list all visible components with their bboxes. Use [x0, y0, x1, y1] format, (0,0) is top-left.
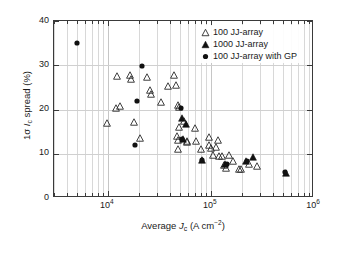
x-axis-tick-top: [201, 21, 202, 24]
data-point-filled-triangle: [181, 119, 190, 128]
gridline-vertical-minor: [170, 21, 171, 196]
x-axis-tick-top: [180, 21, 181, 24]
legend-item-label: 100 JJ-array with GP: [212, 51, 297, 61]
x-axis-tick-top: [67, 21, 68, 24]
y-axis-title-sigma: 1σ: [21, 126, 32, 140]
x-axis-tick: [195, 193, 196, 196]
x-axis-tick: [77, 193, 78, 196]
x-axis-tick-top: [103, 21, 104, 24]
data-point-open-triangle: [112, 71, 121, 80]
y-axis-tick-right: [307, 65, 312, 66]
data-point-open-triangle: [170, 71, 179, 80]
data-point-open-triangle: [142, 72, 151, 81]
y-axis-tick: [54, 110, 59, 111]
x-axis-title-units-open: (A cm: [187, 220, 214, 231]
legend-item-label: 100 JJ-array: [212, 27, 263, 37]
x-axis-tick: [92, 193, 93, 196]
gridline-vertical-minor: [67, 21, 68, 196]
legend-item-label: 1000 JJ-array: [212, 39, 268, 49]
legend-marker-filled-circle-icon: [199, 52, 212, 61]
x-axis-tick: [98, 193, 99, 196]
data-point-open-triangle: [192, 136, 201, 145]
x-axis-tick: [108, 191, 109, 196]
x-axis-tick-top: [98, 21, 99, 24]
x-axis-tick-top: [195, 21, 196, 24]
data-point-open-triangle: [129, 118, 138, 127]
x-axis-tick-top: [206, 21, 207, 24]
gridline-vertical-minor: [309, 21, 310, 196]
data-point-filled-circle: [281, 168, 290, 177]
data-point-filled-circle: [138, 61, 147, 70]
data-point-open-triangle: [115, 101, 124, 110]
x-axis-tick: [201, 193, 202, 196]
legend-item[interactable]: 100 JJ-array with GP: [199, 50, 297, 62]
gridline-vertical-minor: [157, 21, 158, 196]
x-axis-tick: [170, 193, 171, 196]
x-axis-tick: [54, 193, 55, 196]
gridline-vertical-minor: [188, 21, 189, 196]
y-axis-tick: [54, 154, 59, 155]
x-axis-tick: [206, 193, 207, 196]
data-point-filled-circle: [198, 156, 207, 165]
x-tick-label-base: 10: [306, 200, 316, 210]
x-axis-tick: [188, 193, 189, 196]
x-axis-tick: [242, 193, 243, 196]
data-point-open-triangle: [174, 145, 183, 154]
x-axis-tick: [298, 193, 299, 196]
y-axis-tick: [54, 65, 59, 66]
y-tick-label: 40: [19, 16, 49, 25]
x-axis-tick-top: [108, 21, 109, 26]
figure-scatter-plot: 1σ Ic spread (%) Average Jc (A cm−2) 010…: [0, 0, 339, 267]
x-axis-tick: [291, 193, 292, 196]
x-axis-tick: [85, 193, 86, 196]
gridline-horizontal: [54, 154, 312, 155]
x-tick-label-exponent: 6: [316, 198, 320, 205]
x-axis-tick-top: [242, 21, 243, 24]
x-axis-tick: [103, 193, 104, 196]
data-point-open-triangle: [146, 90, 155, 99]
gridline-vertical-minor: [98, 21, 99, 196]
x-axis-tick-top: [77, 21, 78, 24]
data-point-open-triangle: [103, 118, 112, 127]
x-axis-tick-top: [260, 21, 261, 24]
x-axis-tick-top: [139, 21, 140, 24]
y-tick-label: 10: [19, 148, 49, 157]
data-point-filled-circle: [131, 140, 140, 149]
data-point-filled-circle: [132, 97, 141, 106]
x-axis-tick: [283, 193, 284, 196]
x-axis-tick: [157, 193, 158, 196]
x-axis-tick-top: [273, 21, 274, 24]
x-tick-label-exponent: 5: [213, 198, 217, 205]
data-point-filled-circle: [178, 135, 187, 144]
gridline-vertical-minor: [139, 21, 140, 196]
legend-item[interactable]: 1000 JJ-array: [199, 38, 297, 50]
gridline-vertical-minor: [92, 21, 93, 196]
legend-marker-filled-triangle-icon: [199, 40, 212, 49]
data-point-open-triangle: [253, 162, 262, 171]
gridline-vertical-minor: [85, 21, 86, 196]
x-tick-label: 106: [293, 200, 333, 210]
x-axis-tick: [260, 193, 261, 196]
x-axis-tick: [304, 193, 305, 196]
x-axis-tick: [180, 193, 181, 196]
gridline-vertical-major: [108, 21, 109, 196]
x-axis-tick-top: [85, 21, 86, 24]
x-axis-tick: [309, 193, 310, 196]
x-axis-tick: [211, 191, 212, 196]
y-tick-label: 20: [19, 104, 49, 113]
x-axis-tick-top: [188, 21, 189, 24]
x-axis-title: Average Jc (A cm−2): [53, 220, 313, 231]
x-axis-tick-top: [157, 21, 158, 24]
gridline-vertical-minor: [195, 21, 196, 196]
x-axis-title-units-exponent: −2: [214, 219, 221, 226]
x-tick-label: 104: [87, 200, 127, 210]
legend-item[interactable]: 100 JJ-array: [199, 26, 297, 38]
x-tick-label-exponent: 4: [110, 198, 114, 205]
legend-marker-open-triangle-icon: [199, 28, 212, 37]
y-axis-title-subscript: c: [26, 120, 33, 124]
data-point-filled-circle: [243, 156, 252, 165]
x-axis-tick-top: [283, 21, 284, 24]
x-tick-label-base: 10: [203, 200, 213, 210]
data-point-open-triangle: [157, 97, 166, 106]
x-axis-tick-top: [92, 21, 93, 24]
